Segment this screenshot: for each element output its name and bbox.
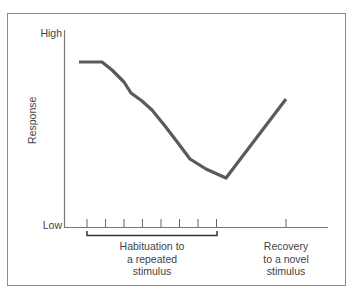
habituation-label: Habituation to a repeated stimulus [102,240,202,278]
y-axis-title: Response [26,90,39,150]
y-high-label: High [30,27,62,40]
recovery-label-line: stimulus [246,265,326,278]
habituation-label-line: stimulus [102,265,202,278]
habituation-bracket [87,231,217,236]
habituation-label-line: a repeated [102,253,202,266]
recovery-label: Recovery to a novel stimulus [246,240,326,278]
recovery-label-line: Recovery [246,240,326,253]
recovery-label-line: to a novel [246,253,326,266]
habituation-label-line: Habituation to [102,240,202,253]
response-curve [79,62,286,178]
x-axis-ticks [87,219,286,227]
y-low-label: Low [30,219,62,232]
